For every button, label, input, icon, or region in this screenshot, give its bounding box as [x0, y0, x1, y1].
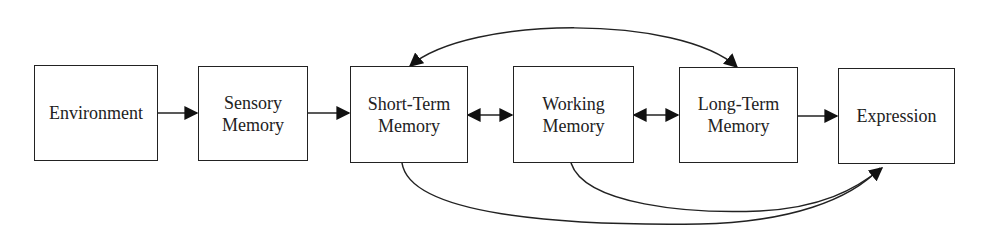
node-long-term-memory: Long-Term Memory	[679, 67, 798, 163]
arc-short-term-to-expression	[402, 163, 880, 224]
node-short-term-memory: Short-Term Memory	[350, 66, 468, 163]
node-label: Working	[542, 93, 605, 115]
node-working-memory: Working Memory	[513, 66, 634, 163]
arc-working-to-expression	[571, 163, 882, 212]
node-label: Memory	[368, 115, 451, 137]
node-label: Long-Term	[698, 93, 780, 115]
node-label: Sensory	[222, 92, 284, 114]
node-environment: Environment	[34, 65, 158, 161]
node-label: Environment	[49, 102, 143, 124]
memory-model-diagram: Environment Sensory Memory Short-Term Me…	[0, 0, 983, 235]
node-label: Expression	[857, 105, 937, 127]
node-sensory-memory: Sensory Memory	[198, 66, 308, 161]
node-label: Memory	[542, 115, 605, 137]
node-label: Memory	[222, 114, 284, 136]
node-label: Short-Term	[368, 93, 451, 115]
arc-short-term-long-term-bidirectional	[410, 28, 737, 67]
node-expression: Expression	[838, 68, 955, 164]
node-label: Memory	[698, 115, 780, 137]
